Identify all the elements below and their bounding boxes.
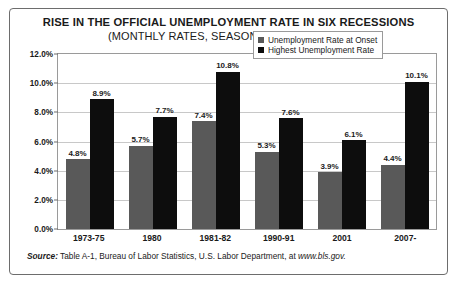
bar: 7.7% <box>153 117 177 229</box>
bar-value-label: 4.8% <box>68 149 86 158</box>
y-axis-tick-label: 6.0% <box>34 137 53 146</box>
y-axis-tick-label: 10.0% <box>30 79 53 88</box>
bar-group: 7.4%10.8% <box>184 54 247 229</box>
y-axis-tick-label: 0.0% <box>34 225 53 234</box>
legend-label-onset: Unemployment Rate at Onset <box>268 35 377 45</box>
source-url: www.bls.gov. <box>298 251 346 261</box>
bar: 5.7% <box>129 146 153 229</box>
source-label: Source: <box>27 251 58 261</box>
bar-value-label: 10.1% <box>405 71 428 80</box>
bar: 4.8% <box>66 159 90 229</box>
bar-value-label: 3.9% <box>320 162 338 171</box>
bar: 8.9% <box>90 99 114 229</box>
legend-item-onset: Unemployment Rate at Onset <box>258 35 377 45</box>
legend-swatch-onset <box>258 37 264 43</box>
y-axis-tick-label: 2.0% <box>34 195 53 204</box>
bar-value-label: 5.3% <box>257 141 275 150</box>
x-axis-tick-label: 1981-82 <box>184 233 247 243</box>
bar-group: 3.9%6.1% <box>310 54 373 229</box>
bar: 5.3% <box>255 152 279 229</box>
x-axis-tick-label: 2001 <box>310 233 373 243</box>
bar-value-label: 7.4% <box>194 111 212 120</box>
bar-value-label: 4.4% <box>383 154 401 163</box>
bar-value-label: 7.6% <box>281 108 299 117</box>
bar-value-label: 5.7% <box>131 135 149 144</box>
bar-group: 5.7%7.7% <box>121 54 184 229</box>
x-axis-tick-label: 2007- <box>374 233 437 243</box>
chart-figure: RISE IN THE OFFICIAL UNEMPLOYMENT RATE I… <box>9 8 448 275</box>
source-note: Source: Table A-1, Bureau of Labor Stati… <box>27 251 346 261</box>
bar: 7.4% <box>192 121 216 229</box>
bar-group: 5.3%7.6% <box>247 54 310 229</box>
bar-value-label: 6.1% <box>344 130 362 139</box>
bar: 6.1% <box>342 140 366 229</box>
source-text: Table A-1, Bureau of Labor Statistics, U… <box>58 251 298 261</box>
bar-group: 4.8%8.9% <box>58 54 121 229</box>
legend-label-highest: Highest Unemployment Rate <box>268 45 374 55</box>
x-axis: 1973-7519801981-821990-9120012007- <box>57 233 437 243</box>
legend-item-highest: Highest Unemployment Rate <box>258 45 377 55</box>
bar-value-label: 7.7% <box>155 106 173 115</box>
bar: 10.8% <box>216 72 240 230</box>
bar-group: 4.4%10.1% <box>373 54 436 229</box>
x-axis-tick-label: 1973-75 <box>57 233 120 243</box>
y-axis-tick-label: 8.0% <box>34 108 53 117</box>
bar-value-label: 10.8% <box>216 61 239 70</box>
x-axis-tick-label: 1990-91 <box>247 233 310 243</box>
bar: 4.4% <box>381 165 405 229</box>
chart-title: RISE IN THE OFFICIAL UNEMPLOYMENT RATE I… <box>10 16 447 28</box>
bar: 3.9% <box>318 172 342 229</box>
bar-groups: 4.8%8.9%5.7%7.7%7.4%10.8%5.3%7.6%3.9%6.1… <box>58 54 436 229</box>
plot-area: 0.0%2.0%4.0%6.0%8.0%10.0%12.0% 4.8%8.9%5… <box>57 53 437 230</box>
chart-legend: Unemployment Rate at Onset Highest Unemp… <box>253 31 383 59</box>
y-axis-tick-label: 12.0% <box>30 50 53 59</box>
x-axis-tick-label: 1980 <box>120 233 183 243</box>
y-axis-tick-label: 4.0% <box>34 166 53 175</box>
legend-swatch-highest <box>258 47 264 53</box>
bar: 7.6% <box>279 118 303 229</box>
bar-value-label: 8.9% <box>92 89 110 98</box>
bar: 10.1% <box>405 82 429 229</box>
